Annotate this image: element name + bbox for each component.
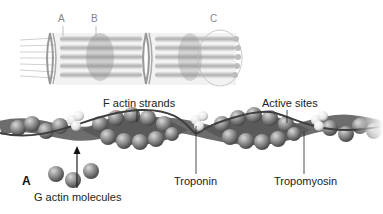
panel-letter-a: A bbox=[22, 175, 31, 187]
myofibril-illustration bbox=[20, 26, 242, 86]
label-tropomyosin: Tropomyosin bbox=[274, 176, 337, 187]
label-troponin: Troponin bbox=[174, 176, 217, 187]
label-f-actin-strands: F actin strands bbox=[103, 98, 175, 109]
label-c-top: C bbox=[210, 14, 217, 24]
label-g-actin-molecules: G actin molecules bbox=[34, 192, 121, 203]
f-actin-strand-right bbox=[205, 107, 310, 150]
arrow-up-icon bbox=[74, 146, 81, 154]
label-active-sites: Active sites bbox=[262, 98, 318, 109]
label-a-top: A bbox=[58, 14, 65, 24]
label-b-top: B bbox=[91, 14, 98, 24]
thin-filament-illustration bbox=[0, 100, 383, 160]
f-actin-strand-mid bbox=[82, 107, 188, 150]
g-actin-molecules bbox=[48, 163, 99, 188]
